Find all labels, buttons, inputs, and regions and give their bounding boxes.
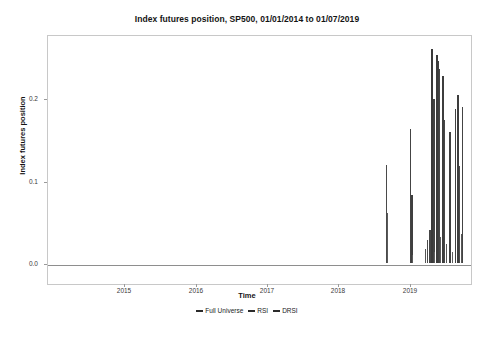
y-tick-label: 0.1: [8, 178, 38, 185]
chart-title: Index futures position, SP500, 01/01/201…: [0, 14, 494, 24]
plot-area: [47, 35, 472, 285]
series-spike: [446, 244, 447, 263]
legend-line-icon: [248, 310, 255, 312]
legend-item[interactable]: RSI: [248, 308, 268, 315]
y-tick-label: 0.0: [8, 260, 38, 267]
x-axis-label: Time: [0, 291, 494, 300]
series-spike: [449, 132, 451, 263]
chart-figure: Index futures position, SP500, 01/01/201…: [0, 0, 494, 337]
series-spike: [412, 255, 413, 263]
legend-item[interactable]: Full Universe: [196, 308, 243, 315]
legend-item[interactable]: DRSI: [273, 308, 298, 315]
y-tick-label: 0.2: [8, 95, 38, 102]
legend-label: Full Universe: [205, 308, 243, 315]
legend-label: RSI: [257, 308, 268, 315]
series-spike: [387, 213, 388, 263]
legend-label: DRSI: [282, 308, 298, 315]
series-spike: [440, 237, 441, 263]
legend-line-icon: [196, 310, 203, 312]
y-axis-label: Index futures position: [18, 66, 27, 206]
legend-line-icon: [273, 310, 280, 312]
series-spike: [439, 69, 440, 263]
zero-line: [48, 265, 471, 266]
series-spike: [433, 99, 435, 263]
series-spike: [452, 252, 453, 263]
series-spike: [444, 120, 445, 263]
series-spike: [434, 252, 435, 263]
series-spike: [411, 195, 413, 263]
chart-legend: Full UniverseRSIDRSI: [0, 308, 494, 315]
series-spike: [462, 107, 463, 263]
